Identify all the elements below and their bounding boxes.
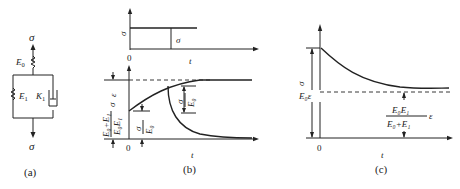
initial-stress-label: E₀ε: [298, 91, 312, 101]
y-label-epsilon: ε: [108, 93, 118, 97]
instant-strain-label: σ E₀: [133, 120, 154, 135]
dimension-arrow-icon: [310, 132, 314, 138]
recovery-curve: [168, 86, 252, 138]
stress-level-label: σ: [176, 35, 181, 45]
x-label-t: t: [381, 150, 384, 160]
svg-text:σ: σ: [107, 102, 117, 107]
caption-c: (c): [375, 163, 388, 176]
dimension-arrow-icon: [182, 86, 186, 91]
axis-arrow-icon: [318, 24, 322, 31]
svg-text:E₀: E₀: [186, 98, 196, 108]
final-stress-label: E₀E₁ E₀+E₁ ε: [386, 105, 433, 129]
stress-bottom-label: σ: [29, 140, 35, 152]
dashpot-k1-icon: [49, 88, 57, 106]
panel-b-creep-recovery: ε E₀+E₁ E₀E₁ σ σ E₀ σ E₀ 0 t (: [101, 65, 259, 176]
svg-text:ε: ε: [429, 111, 433, 121]
svg-text:E₀E₁: E₀E₁: [391, 105, 409, 115]
y-label-sigma: σ: [296, 81, 306, 86]
dimension-arrow-icon: [402, 132, 406, 138]
dimension-arrow-icon: [111, 139, 115, 144]
x-label-t: t: [189, 56, 192, 66]
panel-c-stress-relaxation: E₀ε σ E₀E₁ E₀+E₁ ε 0 t (c): [296, 24, 453, 176]
panel-a-model-diagram: σ E0 E1 K1 σ (a): [11, 31, 57, 179]
panel-b-stress-history: σ σ 0 t: [118, 8, 259, 66]
origin-label: 0: [317, 143, 322, 153]
x-label-t: t: [191, 150, 194, 160]
recovery-strain-label: σ E₀: [175, 93, 196, 108]
caption-b: (b): [183, 163, 196, 176]
asymptote-value-label: E₀+E₁ E₀E₁ σ: [101, 102, 122, 138]
axis-arrow-icon: [253, 137, 259, 141]
relaxation-curve: [321, 48, 449, 88]
dimension-arrow-icon: [140, 139, 144, 144]
spring-e0-label: E0: [15, 57, 25, 68]
axis-arrow-icon: [447, 136, 453, 140]
arrow-up-icon: [31, 44, 36, 50]
svg-text:E₀E₁: E₀E₁: [112, 118, 122, 136]
origin-label: 0: [127, 53, 132, 63]
y-label-sigma: σ: [118, 31, 128, 36]
arrow-down-icon: [31, 132, 36, 138]
svg-text:E₀: E₀: [144, 125, 154, 135]
stress-top-label: σ: [29, 31, 35, 43]
dimension-arrow-icon: [310, 48, 314, 54]
dimension-arrow-icon: [111, 75, 115, 80]
svg-text:σ: σ: [175, 99, 185, 104]
figure: σ E0 E1 K1 σ (a) σ: [0, 0, 460, 189]
origin-label: 0: [126, 143, 131, 153]
axis-arrow-icon: [253, 47, 259, 51]
dimension-arrow-icon: [140, 106, 144, 111]
dimension-arrow-icon: [182, 108, 186, 113]
spring-e1-label: E1: [18, 91, 28, 102]
dashpot-k1-label: K1: [35, 91, 45, 102]
caption-a: (a): [24, 166, 37, 179]
axis-arrow-icon: [128, 8, 132, 14]
axis-arrow-icon: [127, 65, 131, 71]
svg-text:E₀+E₁: E₀+E₁: [386, 119, 410, 129]
svg-text:E₀+E₁: E₀+E₁: [101, 114, 111, 138]
svg-text:σ: σ: [133, 126, 143, 131]
dimension-arrow-icon: [402, 92, 406, 98]
